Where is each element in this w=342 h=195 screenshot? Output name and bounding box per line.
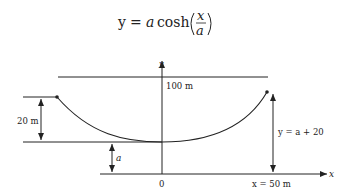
left-paren xyxy=(191,13,194,35)
equation-func: cosh xyxy=(157,14,189,30)
equation-den: a xyxy=(196,23,204,38)
top-line-label: 100 m xyxy=(166,81,193,91)
x-axis-label: x xyxy=(329,169,334,179)
equation-coef: a xyxy=(146,14,154,30)
catenary-diagram: y = a cosh x a y x 100 m 20 m a y = a + … xyxy=(0,0,342,195)
x-end-label: x = 50 m xyxy=(252,179,291,189)
equation-num: x xyxy=(197,8,205,23)
right-paren xyxy=(208,13,211,35)
equation: y = a cosh x a xyxy=(117,8,211,38)
a-label: a xyxy=(116,153,121,163)
origin-label: 0 xyxy=(159,179,164,189)
equation-lhs: y xyxy=(117,14,126,30)
right-height-label: y = a + 20 xyxy=(277,127,324,137)
right-support-point xyxy=(265,90,269,94)
y-axis-label: y xyxy=(158,59,164,68)
sag-label: 20 m xyxy=(17,116,39,126)
equation-eq: = xyxy=(130,14,142,30)
